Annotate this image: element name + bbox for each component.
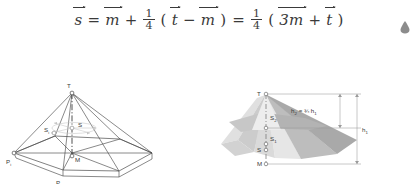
label-dim-h2-rel-sub: 1 bbox=[314, 111, 317, 116]
left-paren-1: ( bbox=[159, 11, 168, 29]
label-m: M bbox=[75, 156, 80, 163]
vector-t-1: t bbox=[171, 11, 178, 29]
left-pyramid-figure: T Si S M Pi Pi+1 bbox=[0, 40, 210, 184]
label-p-i-sub: i bbox=[10, 162, 11, 167]
label-dim-h1: h1 bbox=[362, 126, 368, 135]
label-s-i: Si bbox=[44, 126, 49, 135]
node-markers bbox=[12, 91, 74, 158]
node-p-left bbox=[12, 151, 16, 155]
label-apex-t: T bbox=[67, 82, 71, 89]
fraction-numerator-2: 1 bbox=[251, 8, 262, 19]
dim-tick-upper-bottom bbox=[338, 125, 342, 128]
spoke-m-to-p-back-right bbox=[72, 139, 120, 153]
node-s-point bbox=[264, 148, 268, 152]
label-dim-h1-sub: 1 bbox=[365, 130, 368, 135]
minus-sign: − bbox=[181, 11, 197, 29]
droplet-icon bbox=[399, 20, 411, 34]
base-hexagon-lower-edge bbox=[14, 153, 152, 177]
label-s-i-sub: i bbox=[48, 130, 49, 135]
edge-apex-to-p-back-right bbox=[72, 93, 120, 139]
label-p-i-plus-1: Pi+1 bbox=[56, 179, 67, 184]
node-apex-t bbox=[264, 92, 268, 96]
vector-s: s bbox=[74, 11, 83, 29]
base-hexagon bbox=[14, 136, 152, 171]
equals-sign-1: = bbox=[86, 11, 102, 29]
fraction-numerator-1: 1 bbox=[143, 8, 154, 19]
right-paren-1: ) bbox=[219, 11, 228, 29]
fraction-one-quarter-2: 1 4 bbox=[251, 8, 262, 32]
node-s-i bbox=[52, 131, 56, 135]
vector-m-2: m bbox=[200, 11, 215, 29]
label-right-apex-t: T bbox=[257, 90, 261, 97]
equals-sign-2: = bbox=[231, 11, 247, 29]
vector-three-m: 3m bbox=[279, 11, 304, 29]
label-right-m: M bbox=[257, 160, 262, 167]
node-m bbox=[70, 154, 74, 158]
plus-sign-1: + bbox=[123, 11, 139, 29]
right-pyramid-figure: T S2 S1 S M h2 = ¾ h1 h1 bbox=[205, 40, 419, 184]
node-s2-point bbox=[264, 126, 268, 130]
equation-display: s = m + 1 4 ( t − m ) = 1 4 ( 3m + t ) bbox=[0, 8, 419, 32]
label-s: S bbox=[78, 121, 82, 128]
vector-m-1: m bbox=[105, 11, 120, 29]
fraction-denominator-2: 4 bbox=[251, 19, 262, 31]
vector-t-2: t bbox=[326, 11, 333, 29]
left-paren-2: ( bbox=[267, 11, 276, 29]
chord-left-to-backleft bbox=[14, 136, 55, 153]
node-s1-point bbox=[264, 142, 268, 146]
dim-tick-total-bottom bbox=[355, 161, 359, 164]
label-dim-h2-rel: = ¾ h bbox=[297, 107, 315, 114]
node-s bbox=[70, 126, 74, 130]
label-p-i: Pi bbox=[6, 158, 11, 167]
node-m-point bbox=[264, 162, 268, 166]
label-right-s: S bbox=[257, 146, 261, 153]
dim-tick-upper-top bbox=[338, 94, 342, 97]
shaded-solid bbox=[221, 95, 357, 159]
right-paren-2: ) bbox=[336, 11, 345, 29]
plus-sign-2: + bbox=[307, 11, 323, 29]
dim-tick-total-top bbox=[355, 94, 359, 97]
droplet-shape bbox=[401, 21, 410, 33]
label-p-i-plus-1-sub: i+1 bbox=[60, 183, 67, 184]
spoke-m-to-p-back-left bbox=[55, 136, 72, 153]
fraction-denominator-1: 4 bbox=[143, 19, 154, 31]
page-root: s = m + 1 4 ( t − m ) = 1 4 ( 3m + t ) bbox=[0, 0, 419, 184]
node-apex bbox=[70, 91, 74, 95]
fraction-one-quarter-1: 1 4 bbox=[143, 8, 154, 32]
